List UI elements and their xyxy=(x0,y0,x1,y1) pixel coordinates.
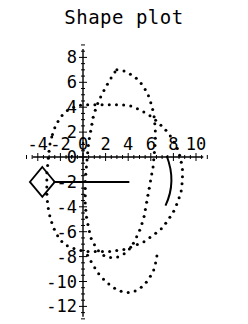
x-tick-label: 4 xyxy=(123,134,133,154)
data-point xyxy=(108,250,111,253)
data-point xyxy=(142,240,145,243)
right-arc xyxy=(165,156,171,206)
data-point xyxy=(50,136,53,139)
diamond-marker xyxy=(30,167,55,197)
y-tick-label: 0 xyxy=(67,147,77,167)
data-point xyxy=(79,249,82,252)
data-point xyxy=(129,105,132,108)
data-point xyxy=(132,242,135,245)
data-point xyxy=(90,123,93,126)
data-point xyxy=(134,289,137,292)
x-tick-label: 6 xyxy=(146,134,156,154)
data-point xyxy=(160,227,163,230)
data-point xyxy=(86,158,89,161)
data-point xyxy=(164,222,167,225)
data-point xyxy=(89,130,92,133)
data-point xyxy=(46,200,49,203)
data-point xyxy=(148,187,151,190)
x-tick-label: 10 xyxy=(186,134,206,154)
data-point xyxy=(136,243,139,246)
data-point xyxy=(108,103,111,106)
data-point xyxy=(48,143,51,146)
data-point xyxy=(85,216,88,219)
plot-canvas: -4-20246810 86420-2-4-6-8-10-12 xyxy=(0,0,248,324)
data-point xyxy=(45,178,48,181)
data-point xyxy=(147,94,150,97)
data-point xyxy=(159,124,162,127)
data-point xyxy=(149,101,152,104)
data-point xyxy=(152,165,155,168)
data-point xyxy=(97,272,100,275)
data-point xyxy=(151,108,154,111)
data-point xyxy=(102,254,105,257)
data-point xyxy=(153,122,156,125)
data-point xyxy=(85,166,88,169)
data-point xyxy=(178,154,181,157)
data-point xyxy=(93,266,96,269)
data-point xyxy=(72,106,75,109)
data-point xyxy=(150,173,153,176)
data-point xyxy=(48,214,51,217)
data-point xyxy=(140,286,143,289)
data-point xyxy=(79,104,82,107)
data-point xyxy=(53,228,56,231)
data-point xyxy=(169,135,172,138)
data-point xyxy=(46,164,49,167)
data-point xyxy=(47,157,50,160)
y-tick-label: -12 xyxy=(46,296,77,316)
data-point xyxy=(122,248,125,251)
data-point xyxy=(92,116,95,119)
data-point xyxy=(140,82,143,85)
data-point xyxy=(56,120,59,123)
data-point xyxy=(138,229,141,232)
data-point xyxy=(152,268,155,271)
data-point xyxy=(66,109,69,112)
data-point xyxy=(90,237,93,240)
x-tick-label: -4 xyxy=(28,134,48,154)
data-point xyxy=(102,89,105,92)
data-point xyxy=(168,216,171,219)
data-point xyxy=(181,175,184,178)
data-point xyxy=(90,260,93,263)
x-tick-label: 2 xyxy=(100,134,110,154)
data-point xyxy=(84,173,87,176)
data-point xyxy=(109,256,112,259)
data-point xyxy=(61,114,64,117)
data-point xyxy=(154,144,157,147)
data-point xyxy=(178,196,181,199)
data-point xyxy=(84,209,87,212)
data-point xyxy=(86,254,89,257)
data-point xyxy=(96,102,99,105)
data-point xyxy=(122,104,125,107)
chart-container: Shape plot -4-20246810 86420-2-4-6-8-10-… xyxy=(0,0,248,324)
data-point xyxy=(129,73,132,76)
data-point xyxy=(101,250,104,253)
data-point xyxy=(144,208,147,211)
data-point xyxy=(86,103,89,106)
data-point xyxy=(53,126,56,129)
x-tick-label: 0 xyxy=(78,134,88,154)
data-point xyxy=(102,278,105,281)
data-point xyxy=(106,83,109,86)
data-point xyxy=(153,151,156,154)
data-point xyxy=(144,88,147,91)
data-point xyxy=(181,182,184,185)
data-point xyxy=(145,281,148,284)
data-point xyxy=(153,115,156,118)
data-point xyxy=(72,247,75,250)
data-point xyxy=(50,221,53,224)
data-point xyxy=(84,202,87,205)
data-point xyxy=(135,77,138,80)
data-point xyxy=(164,129,167,132)
data-point xyxy=(123,252,126,255)
x-axis-tick-labels: -4-20246810 xyxy=(28,134,207,154)
data-point xyxy=(129,246,132,249)
data-point xyxy=(93,103,96,106)
data-point xyxy=(86,223,89,226)
data-point xyxy=(115,249,118,252)
data-point xyxy=(172,210,175,213)
data-point xyxy=(86,151,89,154)
data-point xyxy=(88,137,91,140)
data-point xyxy=(154,137,157,140)
data-point xyxy=(88,230,91,233)
